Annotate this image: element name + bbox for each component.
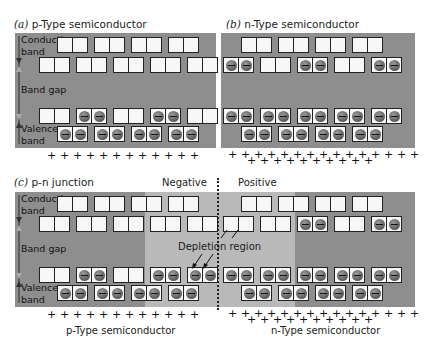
- filled-state-cell: [109, 126, 125, 142]
- positive-charge-icon: +: [112, 151, 121, 161]
- positive-charge-icon: +: [99, 151, 108, 161]
- empty-state-cell: [54, 216, 70, 232]
- filled-state-cell: [312, 108, 328, 124]
- empty-state-cell: [293, 37, 309, 53]
- filled-state-cell: [349, 108, 365, 124]
- electron-icon: [315, 60, 326, 71]
- filled-state-cell: [72, 285, 88, 301]
- electron-icon: [300, 270, 311, 281]
- conduction-band-pair: [278, 37, 308, 52]
- electron-icon: [226, 111, 237, 122]
- electron-icon: [389, 60, 400, 71]
- positive-charge-icon: +: [325, 315, 334, 325]
- empty-state-cell: [241, 196, 257, 212]
- electron-icon: [205, 270, 216, 281]
- empty-state-cell: [293, 196, 309, 212]
- empty-state-cell: [76, 216, 92, 232]
- valence-band-pair: [334, 267, 364, 282]
- valence-band-pair: [94, 285, 124, 300]
- electron-icon: [263, 270, 274, 281]
- electron-icon: [263, 111, 274, 122]
- panel-c-title-text: p-n junction: [31, 176, 94, 188]
- positive-charge-icon: +: [125, 310, 134, 320]
- electron-icon: [352, 111, 363, 122]
- empty-state-cell: [39, 216, 55, 232]
- valence-band-pair: [150, 267, 180, 282]
- electron-icon: [315, 111, 326, 122]
- positive-charge-icon: +: [286, 315, 295, 325]
- positive-charge-icon: +: [60, 151, 69, 161]
- electron-icon: [244, 288, 255, 299]
- electron-icon: [60, 288, 71, 299]
- panel-a-prefix: (a): [14, 18, 28, 30]
- valence-band-pair: [352, 126, 382, 141]
- filled-state-cell: [76, 267, 92, 283]
- electron-icon: [244, 129, 255, 140]
- electron-icon: [315, 219, 326, 230]
- conduction-band-pair: [76, 216, 106, 231]
- valence-band-pair: [168, 126, 198, 141]
- electron-icon: [241, 111, 252, 122]
- valence-band-pair: [76, 267, 106, 282]
- valence-band-pair: [297, 108, 327, 123]
- electron-icon: [226, 270, 237, 281]
- empty-state-cell: [39, 57, 55, 73]
- valence-band-pair: [315, 285, 345, 300]
- empty-state-cell: [352, 37, 368, 53]
- electron-icon: [149, 129, 160, 140]
- empty-state-cell: [113, 108, 129, 124]
- electron-icon: [278, 270, 289, 281]
- panel-a-conduction-label-2: band: [21, 47, 45, 57]
- panel-c-valence-label-1: Valence: [21, 283, 58, 293]
- empty-state-cell: [278, 196, 294, 212]
- electron-icon: [318, 288, 329, 299]
- electron-icon: [186, 288, 197, 299]
- valence-band-pair: [260, 267, 290, 282]
- filled-state-cell: [238, 108, 254, 124]
- conduction-band-pair: [39, 57, 69, 72]
- empty-state-cell: [367, 37, 383, 53]
- empty-state-cell: [367, 196, 383, 212]
- filled-state-cell: [386, 57, 402, 73]
- filled-state-cell: [297, 216, 313, 232]
- negative-label: Negative: [162, 177, 207, 188]
- filled-state-cell: [165, 267, 181, 283]
- filled-state-cell: [238, 57, 254, 73]
- electron-icon: [296, 288, 307, 299]
- filled-state-cell: [371, 108, 387, 124]
- empty-state-cell: [260, 57, 276, 73]
- filled-state-cell: [150, 108, 166, 124]
- filled-state-cell: [278, 285, 294, 301]
- conduction-band-pair: [150, 216, 180, 231]
- positive-charge-icon: +: [247, 315, 256, 325]
- empty-state-cell: [183, 37, 199, 53]
- positive-charge-icon: +: [410, 309, 419, 319]
- electron-icon: [153, 270, 164, 281]
- positive-charge-icon: +: [299, 315, 308, 325]
- empty-state-cell: [72, 37, 88, 53]
- empty-state-cell: [131, 196, 147, 212]
- conduction-band-pair: [39, 216, 69, 231]
- electron-icon: [300, 111, 311, 122]
- electron-icon: [97, 129, 108, 140]
- electron-icon: [241, 60, 252, 71]
- valence-band-pair: [371, 108, 401, 123]
- electron-icon: [337, 111, 348, 122]
- conduction-band-pair: [94, 196, 124, 211]
- positive-charge-icon: +: [177, 310, 186, 320]
- valence-band-pair: [39, 267, 69, 282]
- filled-state-cell: [131, 285, 147, 301]
- conduction-band-pair: [297, 216, 327, 231]
- positive-charge-icon: +: [73, 151, 82, 161]
- valence-band-pair: [278, 126, 308, 141]
- filled-state-cell: [241, 126, 257, 142]
- positive-charge-icon: +: [338, 315, 347, 325]
- empty-state-cell: [275, 57, 291, 73]
- electron-icon: [281, 288, 292, 299]
- valence-band-pair: [334, 108, 364, 123]
- electron-icon: [134, 288, 145, 299]
- filled-state-cell: [146, 126, 162, 142]
- valence-band-pair: [278, 285, 308, 300]
- empty-state-cell: [330, 37, 346, 53]
- positive-label: Positive: [238, 177, 277, 188]
